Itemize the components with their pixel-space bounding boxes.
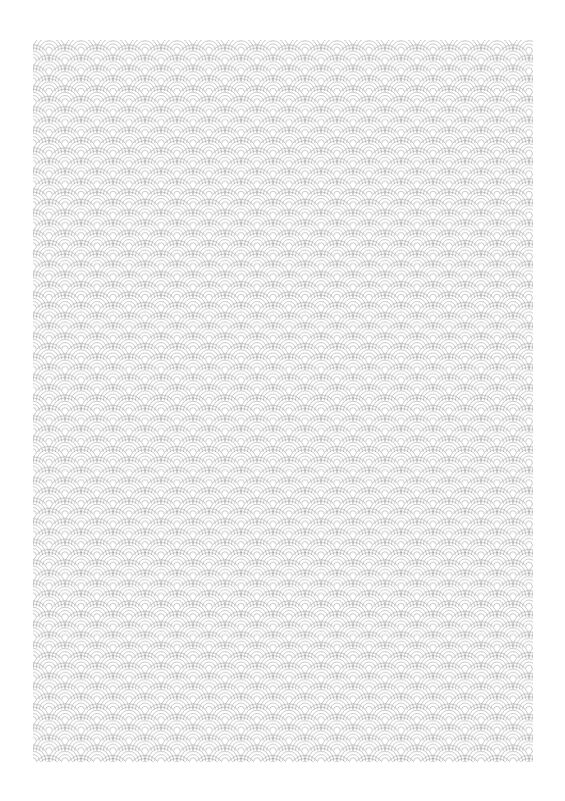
seigaiha-pattern-fill [33,40,533,762]
seigaiha-pattern-surface [33,40,533,762]
seigaiha-pattern-panel [33,40,533,762]
page-canvas: Seigaiha Wave Pattern Sheet [0,0,565,801]
